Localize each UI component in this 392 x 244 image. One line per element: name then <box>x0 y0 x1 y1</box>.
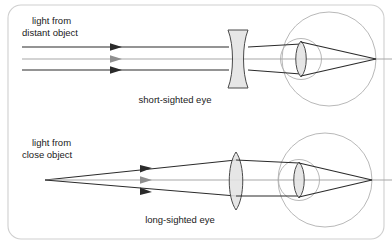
arrowhead-axis-short <box>110 55 122 63</box>
caption-long-sighted: long-sighted eye <box>145 214 215 225</box>
converging-ray-upper-long <box>299 163 372 180</box>
refracted-ray-lower-short <box>248 70 301 74</box>
source-label-line2-long: close object <box>22 149 73 160</box>
figure-frame <box>8 5 384 239</box>
arrowhead-lower-short <box>110 66 122 74</box>
source-label-line2-short: distant object <box>22 27 78 38</box>
arrowhead-axis-long <box>140 176 152 184</box>
converging-ray-lower-short <box>301 59 376 76</box>
converging-ray-upper-short <box>301 42 376 59</box>
arrowhead-upper-short <box>110 43 122 51</box>
eye-lens-short-sighted <box>296 41 307 77</box>
optics-diagram-figure: light from distant object short-sighted … <box>0 0 392 244</box>
source-label-line1-long: light from <box>32 137 71 148</box>
refracted-ray-upper-short <box>248 44 301 47</box>
long-sighted-diagram: light from close object long-sighted eye <box>22 133 392 227</box>
converging-ray-lower-long <box>299 180 372 197</box>
eye-lens-long-sighted <box>294 162 305 198</box>
source-label-line1-short: light from <box>32 15 71 26</box>
caption-short-sighted: short-sighted eye <box>139 94 212 105</box>
short-sighted-diagram: light from distant object short-sighted … <box>22 12 392 106</box>
